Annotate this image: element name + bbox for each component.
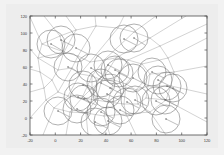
y-tick-label-60: 60 bbox=[12, 65, 27, 70]
y-tick-label-100: 100 bbox=[12, 31, 27, 36]
x-tick-label-0: 0 bbox=[54, 138, 56, 143]
y-tick-label-120: 120 bbox=[12, 14, 27, 19]
y-tick-label-40: 40 bbox=[12, 82, 27, 87]
figure-window: 120 100 80 60 40 20 0 -20 -20 0 20 40 60… bbox=[0, 0, 224, 155]
y-tick-label-0: 0 bbox=[12, 116, 27, 121]
y-tick-label-20: 20 bbox=[12, 99, 27, 104]
x-tick-label-60: 60 bbox=[129, 138, 133, 143]
x-tick-label-100: 100 bbox=[178, 138, 184, 143]
y-tick-label-neg20: -20 bbox=[12, 133, 27, 138]
y-tick-label-80: 80 bbox=[12, 48, 27, 53]
x-tick-label-120: 120 bbox=[204, 138, 210, 143]
x-tick-label-40: 40 bbox=[104, 138, 108, 143]
x-tick-label-neg20: -20 bbox=[27, 138, 32, 143]
x-tick-label-80: 80 bbox=[154, 138, 158, 143]
voronoi-circle-plot[interactable] bbox=[0, 0, 224, 155]
x-tick-label-20: 20 bbox=[78, 138, 82, 143]
